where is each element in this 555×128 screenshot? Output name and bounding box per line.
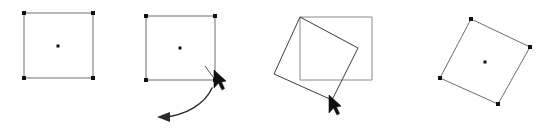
center-dot xyxy=(484,61,487,64)
center-dot xyxy=(179,47,182,50)
panel-4 xyxy=(438,17,532,106)
handle-top-left[interactable] xyxy=(22,11,26,15)
handle-top-right[interactable] xyxy=(213,14,217,18)
handle-bottom-right[interactable] xyxy=(91,76,95,80)
cursor-arrow-glyph xyxy=(329,95,341,115)
handle-right[interactable] xyxy=(528,45,532,49)
original-position-outline xyxy=(300,17,372,80)
rotation-arrow-head xyxy=(157,112,170,122)
center-dot xyxy=(57,45,60,48)
rotating-square-outline[interactable] xyxy=(274,17,358,100)
handle-left[interactable] xyxy=(438,76,442,80)
panel-1 xyxy=(22,11,95,80)
cursor-arrow-glyph xyxy=(214,70,226,90)
rotation-arc xyxy=(163,88,212,117)
handle-bottom[interactable] xyxy=(496,102,500,106)
mouse-pointer-icon xyxy=(329,95,341,115)
rotate-sequence-figure: Rotate shape interaction sequence xyxy=(0,0,555,128)
handle-top[interactable] xyxy=(469,17,473,21)
panel-2 xyxy=(144,14,226,122)
figure-canvas xyxy=(0,0,555,128)
handle-bottom-left[interactable] xyxy=(144,78,148,82)
handle-top-right[interactable] xyxy=(91,11,95,15)
handle-bottom-left[interactable] xyxy=(22,76,26,80)
panel-3 xyxy=(274,17,372,115)
handle-top-left[interactable] xyxy=(144,14,148,18)
rotation-direction-arrow xyxy=(157,88,212,122)
